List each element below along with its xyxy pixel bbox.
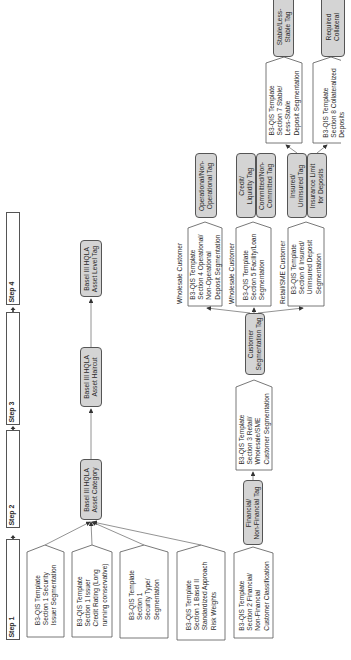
section6-insured-deposit: B3-QIS Template Section 6 Insured/ Unins… xyxy=(289,229,323,305)
section5-label: Wholesale Customer xyxy=(228,243,235,304)
committed-tag-text: Committed/Non- Committed Tag xyxy=(258,161,274,209)
operational-tag: Operational/Non- Operational Tag xyxy=(195,153,217,218)
step-1-box: Step 1 xyxy=(6,539,20,640)
section1-security-type-text: B3-QIS Template Section 1 Security Type/… xyxy=(128,570,161,620)
section1-risk-weights: B3-QIS Template Section 1 Basel II Stand… xyxy=(178,553,224,639)
section5-text: B3-QIS Template Section 5 Facility/Loan … xyxy=(241,234,266,300)
section4-label: Wholesale Customer xyxy=(176,243,183,304)
section8-collateralized-deposits: B3-QIS Template Section 8 Collateralized… xyxy=(314,64,351,142)
section1-issuer-credit-rating: B3-QIS Template Section 1 Issuer Credit … xyxy=(73,553,111,636)
section1-security-issuer: B3-QIS Template Section 1 Security Issue… xyxy=(28,553,63,636)
collateral-tag: Required Collateral xyxy=(321,0,345,57)
section4-text: B3-QIS Template Section 4 Operational/ N… xyxy=(189,234,222,299)
operational-tag-text: Operational/Non- Operational Tag xyxy=(198,160,214,210)
customer-segmentation-tag-text: Customer Segmentation Tag xyxy=(247,317,263,370)
section2-customer-classification: B3-QIS Template Section 2 Financial/ Non… xyxy=(235,554,272,637)
section4-operational-deposit: B3-QIS Template Section 4 Operational/ N… xyxy=(189,229,221,305)
section6-text: B3-QIS Template Section 6 Insured/ Unins… xyxy=(290,240,323,294)
committed-tag: Committed/Non- Committed Tag xyxy=(256,153,276,218)
insured-tag: Insured/ Uninsured Tag xyxy=(287,153,307,218)
step-3-box: Step 3 xyxy=(6,312,20,425)
insurance-limit-tag-text: Insurance Limit for Deposits xyxy=(309,163,325,208)
insurance-limit-tag: Insurance Limit for Deposits xyxy=(307,153,327,218)
credit-liquidity-tag-text: Credit/ Liquidity Tag xyxy=(238,167,254,204)
section1-security-issuer-text: B3-QIS Template Section 1 Security Issue… xyxy=(33,564,58,624)
financial-tag: Financial/ Non-Financial Tag xyxy=(243,480,263,545)
step-3-label: Step 3 xyxy=(8,401,16,422)
section7-text: B3-QIS Template Section 7 Stable/ Less-S… xyxy=(268,71,301,136)
basel-asset-level-tag: Basel III HQLA Asset Level Tag xyxy=(80,240,102,297)
section8-text: B3-QIS Template Section 8 Collateralized… xyxy=(322,68,347,137)
basel-asset-category: Basel III HQLA Asset Category xyxy=(80,459,102,520)
stable-tag-text: Stable/Less- Stable Tag xyxy=(275,8,291,45)
section7-stable-deposit: B3-QIS Template Section 7 Stable/ Less-S… xyxy=(267,64,301,142)
basel-asset-haircut: Basel III HQLA Asset Haircut xyxy=(80,347,102,407)
section3-customer-segmentation: B3-QIS Template Section 3 Retail/ Wholes… xyxy=(237,388,271,469)
section2-text: B3-QIS Template Section 2 Financial/ Non… xyxy=(237,561,270,630)
section1-security-type: B3-QIS Template Section 1 Security Type/… xyxy=(121,553,167,637)
basel-asset-category-text: Basel III HQLA Asset Category xyxy=(83,467,99,512)
step-2-label: Step 2 xyxy=(8,504,16,525)
step-4-box: Step 4 xyxy=(6,212,20,305)
stable-tag: Stable/Less- Stable Tag xyxy=(273,0,294,57)
step-1-label: Step 1 xyxy=(8,616,16,637)
customer-segmentation-tag: Customer Segmentation Tag xyxy=(245,313,265,375)
section1-risk-weights-text: B3-QIS Template Section 1 Basel II Stand… xyxy=(185,562,218,631)
basel-asset-haircut-text: Basel III HQLA Asset Haircut xyxy=(83,355,99,399)
credit-liquidity-tag: Credit/ Liquidity Tag xyxy=(236,153,256,218)
insured-tag-text: Insured/ Uninsured Tag xyxy=(289,164,305,206)
step-4-label: Step 4 xyxy=(8,281,16,302)
section1-issuer-credit-rating-text: B3-QIS Template Section 1 Issuer Credit … xyxy=(76,563,109,626)
step-2-box: Step 2 xyxy=(6,430,20,528)
basel-asset-level-tag-text: Basel III HQLA Asset Level Tag xyxy=(83,245,99,291)
collateral-tag-text: Required Collateral xyxy=(325,13,341,41)
section5-facility-loan: B3-QIS Template Section 5 Facility/Loan … xyxy=(237,229,270,305)
section6-label: Retail/SME Customer xyxy=(279,241,286,304)
section3-text: B3-QIS Template Section 3 Retail/ Wholes… xyxy=(238,393,271,464)
financial-tag-text: Financial/ Non-Financial Tag xyxy=(245,486,261,539)
